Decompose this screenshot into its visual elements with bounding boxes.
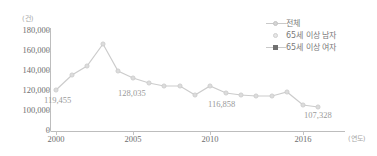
- legend-label: 전체: [286, 18, 300, 29]
- x-axis-ticks: [57, 132, 304, 136]
- legend-label: 65세 이상 남자: [286, 30, 336, 41]
- data-point-label: 128,035: [118, 88, 146, 98]
- legend-item-female-65plus[interactable]: 65세 이상 여자: [266, 42, 372, 53]
- data-point-label: 116,858: [208, 99, 235, 109]
- data-point-label: 119,455: [44, 95, 71, 105]
- line-chart: (건) (연도) 180,000 160,000 140,000 120,000…: [0, 0, 377, 156]
- data-point-label: 107,328: [304, 110, 332, 120]
- y-axis-ticks: [47, 31, 51, 131]
- legend-marker-line-dot-icon: [266, 18, 286, 29]
- legend-marker-square-icon: [266, 42, 286, 53]
- legend-marker-dot-icon: [266, 30, 286, 41]
- legend-item-total[interactable]: 전체: [266, 18, 372, 29]
- chart-legend: 전체 65세 이상 남자 65세 이상 여자: [266, 18, 372, 54]
- legend-label: 65세 이상 여자: [286, 42, 336, 53]
- legend-item-male-65plus[interactable]: 65세 이상 남자: [266, 30, 372, 41]
